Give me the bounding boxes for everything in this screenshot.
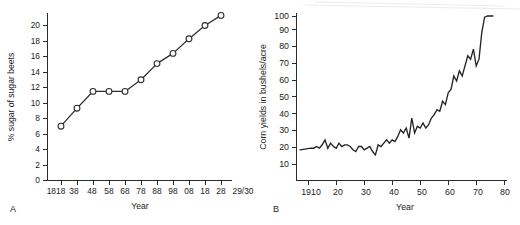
x-tick-label: 40 <box>389 187 399 197</box>
panel-label-a: A <box>10 204 16 214</box>
y-tick-label: 8 <box>35 113 40 123</box>
y-axis-title-a: % sugar of sugar beets <box>6 53 16 141</box>
x-axis-title-b: Year <box>396 202 414 212</box>
x-tick-label: 50 <box>417 187 427 197</box>
x-tick-label: 1910 <box>301 187 321 197</box>
x-tick-label: 20 <box>333 187 343 197</box>
y-tick-label: 4 <box>35 144 40 154</box>
x-tick-label: 29/30 <box>233 186 254 196</box>
y-tick-label: 90 <box>279 25 289 35</box>
x-tick-label: 80 <box>500 187 510 197</box>
x-tick-labels-b: 1910 20 30 40 50 60 70 80 <box>301 187 510 197</box>
y-ticks-b <box>292 16 297 164</box>
y-tick-label: 10 <box>31 98 41 108</box>
y-tick-label: 80 <box>279 41 289 51</box>
x-tick-label: 08 <box>184 186 194 196</box>
x-tick-label: 18 <box>200 186 210 196</box>
x-tick-label: 48 <box>87 186 97 196</box>
panel-b-corn-yields-chart: 10 20 30 40 50 60 70 80 90 100 <box>255 0 520 225</box>
series-line-sugar-beets <box>61 15 221 126</box>
x-axis-title-a: Year <box>131 201 149 211</box>
x-tick-label: 30 <box>361 187 371 197</box>
x-tick-label: 88 <box>152 186 162 196</box>
y-tick-label: 20 <box>31 20 41 30</box>
y-tick-label: 2 <box>35 160 40 170</box>
two-panel-figure: 0 2 4 6 8 10 12 14 16 18 20 <box>0 0 520 225</box>
panel-a-sugar-beets-chart: 0 2 4 6 8 10 12 14 16 18 20 <box>0 0 260 225</box>
y-tick-label: 60 <box>279 75 289 85</box>
y-tick-label: 14 <box>31 67 41 77</box>
x-tick-label: 38 <box>69 186 79 196</box>
y-tick-label: 40 <box>279 109 289 119</box>
x-tick-labels-a: 1818 38 48 58 68 78 88 98 08 18 28 29/30 <box>47 186 254 196</box>
y-tick-label: 50 <box>279 92 289 102</box>
x-tick-label: 68 <box>120 186 130 196</box>
panel-label-b: B <box>273 204 279 214</box>
y-tick-label: 16 <box>31 51 41 61</box>
y-tick-label: 18 <box>31 36 41 46</box>
x-tick-label: 1818 <box>47 186 66 196</box>
y-tick-label: 10 <box>279 159 289 169</box>
panel-b-svg: 10 20 30 40 50 60 70 80 90 100 <box>255 0 520 225</box>
x-tick-label: 58 <box>104 186 114 196</box>
series-line-corn-yields <box>300 16 493 155</box>
y-tick-label: 30 <box>279 125 289 135</box>
panel-a-svg: 0 2 4 6 8 10 12 14 16 18 20 <box>0 0 260 225</box>
x-tick-label: 78 <box>136 186 146 196</box>
y-tick-label: 6 <box>35 129 40 139</box>
y-axis-title-b: Corn yields in bushels/acre <box>258 44 268 150</box>
y-tick-label: 0 <box>35 175 40 185</box>
y-tick-labels-a: 0 2 4 6 8 10 12 14 16 18 20 <box>31 20 41 185</box>
y-tick-label: 12 <box>31 82 41 92</box>
y-tick-labels-b: 10 20 30 40 50 60 70 80 90 100 <box>274 11 289 169</box>
y-ticks-a <box>43 26 48 181</box>
y-tick-label: 70 <box>279 58 289 68</box>
y-tick-label: 100 <box>274 11 289 21</box>
x-tick-label: 70 <box>473 187 483 197</box>
x-tick-label: 60 <box>445 187 455 197</box>
x-ticks-a <box>61 181 221 186</box>
x-tick-label: 28 <box>216 186 226 196</box>
x-tick-label: 98 <box>168 186 178 196</box>
x-ticks-b <box>308 181 504 186</box>
y-tick-label: 20 <box>279 142 289 152</box>
